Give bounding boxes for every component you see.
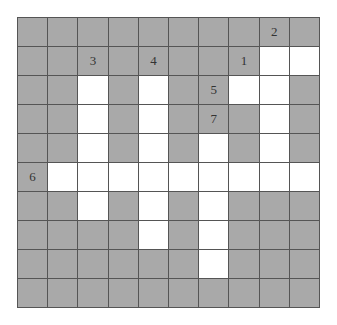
grid-cell-block (48, 134, 78, 163)
clue-number: 4 (150, 53, 157, 69)
grid-cell-block (48, 192, 78, 221)
grid-cell-block (48, 250, 78, 279)
clue-number: 3 (90, 53, 97, 69)
clue-number: 5 (211, 82, 218, 98)
grid-cell-open[interactable] (199, 134, 229, 163)
grid-cell-open[interactable] (139, 192, 169, 221)
grid-cell-open[interactable] (260, 105, 290, 134)
grid-cell-block (48, 105, 78, 134)
grid-cell-open[interactable] (139, 105, 169, 134)
grid-cell-block (290, 192, 320, 221)
grid-cell-block (229, 105, 259, 134)
grid-cell-block (290, 279, 320, 308)
grid-cell-block (169, 105, 199, 134)
grid-cell-open[interactable] (229, 163, 259, 192)
grid-cell-block (229, 279, 259, 308)
grid-cell-block (290, 134, 320, 163)
grid-cell-open[interactable] (139, 163, 169, 192)
grid-cell-open[interactable] (139, 134, 169, 163)
grid-cell-open[interactable] (199, 221, 229, 250)
clue-number: 1 (241, 53, 248, 69)
grid-cell-block (78, 221, 108, 250)
grid-cell-block (199, 18, 229, 47)
grid-cell-block: 4 (139, 47, 169, 76)
grid-cell-open[interactable] (78, 76, 108, 105)
grid-cell-block (169, 76, 199, 105)
grid-cell-open[interactable] (169, 163, 199, 192)
grid-cell-block (260, 192, 290, 221)
grid-cell-open[interactable] (260, 47, 290, 76)
grid-cell-block (290, 76, 320, 105)
grid-cell-open[interactable] (260, 163, 290, 192)
grid-cell-block (169, 18, 199, 47)
grid-cell-block (48, 18, 78, 47)
clue-number: 6 (29, 169, 36, 185)
grid-cell-block (109, 192, 139, 221)
grid-cell-block (290, 250, 320, 279)
grid-cell-block (229, 192, 259, 221)
grid-cell-block (229, 250, 259, 279)
grid-cell-open[interactable] (199, 192, 229, 221)
grid-cell-open[interactable] (260, 134, 290, 163)
grid-cell-block (78, 250, 108, 279)
grid-cell-block: 1 (229, 47, 259, 76)
grid-cell-block (169, 250, 199, 279)
grid-cell-block: 2 (260, 18, 290, 47)
grid-cell-block (18, 47, 48, 76)
grid-cell-open[interactable] (109, 163, 139, 192)
grid-cell-open[interactable] (78, 105, 108, 134)
grid-cell-block (109, 105, 139, 134)
grid-cell-block (260, 250, 290, 279)
grid-cell-block (199, 47, 229, 76)
grid-cell-open[interactable] (48, 163, 78, 192)
grid-cell-open[interactable] (290, 47, 320, 76)
grid-cell-block: 6 (18, 163, 48, 192)
grid-cell-block (260, 279, 290, 308)
grid-cell-block (18, 76, 48, 105)
grid-cell-open[interactable] (290, 163, 320, 192)
grid-cell-block (139, 279, 169, 308)
grid-cell-open[interactable] (78, 163, 108, 192)
grid-cell-block (109, 47, 139, 76)
grid-cell-block (18, 18, 48, 47)
grid-cell-block (169, 47, 199, 76)
grid-cell-block (18, 221, 48, 250)
grid-cell-open[interactable] (199, 250, 229, 279)
grid-cell-block (109, 250, 139, 279)
grid-cell-block: 7 (199, 105, 229, 134)
grid-cell-block: 3 (78, 47, 108, 76)
grid-cell-block (18, 250, 48, 279)
grid-cell-block (260, 221, 290, 250)
grid-cell-open[interactable] (78, 192, 108, 221)
grid-cell-block (78, 18, 108, 47)
grid-cell-block (169, 221, 199, 250)
crossword-grid: 2341576 (17, 17, 320, 308)
grid-cell-open[interactable] (139, 221, 169, 250)
grid-cell-block (169, 192, 199, 221)
grid-cell-block (229, 134, 259, 163)
grid-cell-block (18, 192, 48, 221)
grid-cell-block (78, 279, 108, 308)
grid-cell-block (109, 18, 139, 47)
grid-cell-block (229, 18, 259, 47)
grid-cell-block (109, 76, 139, 105)
grid-cell-block (18, 134, 48, 163)
grid-cell-block (18, 279, 48, 308)
grid-cell-block (48, 279, 78, 308)
grid-cell-block (18, 105, 48, 134)
grid-cell-open[interactable] (229, 76, 259, 105)
grid-cell-block (199, 279, 229, 308)
grid-cell-block (229, 221, 259, 250)
grid-cell-block (109, 279, 139, 308)
clue-number: 7 (211, 111, 218, 127)
grid-cell-open[interactable] (78, 134, 108, 163)
grid-cell-open[interactable] (139, 76, 169, 105)
grid-cell-block (48, 47, 78, 76)
grid-cell-block: 5 (199, 76, 229, 105)
grid-cell-open[interactable] (199, 163, 229, 192)
grid-cell-block (48, 221, 78, 250)
grid-cell-open[interactable] (260, 76, 290, 105)
grid-cell-block (290, 18, 320, 47)
grid-cell-block (290, 105, 320, 134)
grid-cell-block (109, 134, 139, 163)
